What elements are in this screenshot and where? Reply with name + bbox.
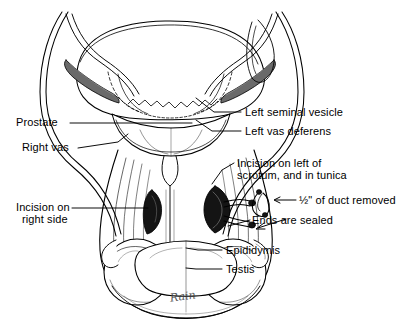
label-prostate: Prostate: [16, 116, 58, 129]
arrow-to-duct-segment: [274, 197, 296, 203]
label-incision-left-line1: Incision on left of: [237, 157, 321, 170]
label-incision-right-line2: right side: [22, 213, 68, 226]
bladder-shape: [77, 21, 265, 120]
label-left-seminal-vesicle: Left seminal vesicle: [245, 106, 343, 119]
label-incision-left-line2: scrotum, and in tunica: [237, 169, 347, 182]
label-ends-sealed: Ends are sealed: [252, 214, 333, 227]
urethra-shape: [162, 156, 178, 246]
label-left-vas-deferens: Left vas deferens: [245, 125, 331, 138]
label-right-vas: Right vas: [22, 141, 69, 154]
prostate-shape: [112, 114, 230, 156]
label-incision-right-line1: Incision on: [16, 201, 70, 214]
label-epididymis: Epididymis: [226, 244, 280, 257]
label-testis: Testis: [226, 263, 255, 276]
label-duct-removed: ½" of duct removed: [299, 194, 396, 207]
